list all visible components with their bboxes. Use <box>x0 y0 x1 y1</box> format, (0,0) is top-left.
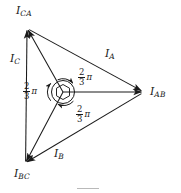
fraction-upper-right: 2 3 <box>78 68 85 87</box>
label-i-ab: IAB <box>150 86 166 98</box>
label-i-a: IA <box>105 48 115 60</box>
label-angle-left: 2 3 π <box>23 82 37 101</box>
fraction-left: 2 3 <box>23 82 30 101</box>
phasor-diagram-figure: ICA IC IBC IAB IA IB 2 3 π 2 3 π 2 3 π <box>0 0 181 193</box>
fraction-lower-right: 2 3 <box>76 105 83 124</box>
label-i-ca: ICA <box>16 5 32 17</box>
pi-symbol-lower-right: π <box>83 110 90 119</box>
angle-arc-left <box>47 83 50 101</box>
caption-rule-artifact <box>77 188 99 189</box>
pi-symbol-upper-right: π <box>85 73 92 82</box>
label-angle-lower-right: 2 3 π <box>76 105 90 124</box>
label-i-b: IB <box>54 148 64 160</box>
label-i-bc: IBC <box>14 168 30 180</box>
pi-symbol-left: π <box>30 87 37 96</box>
label-angle-upper-right: 2 3 π <box>78 68 92 87</box>
label-i-c: IC <box>10 53 20 65</box>
